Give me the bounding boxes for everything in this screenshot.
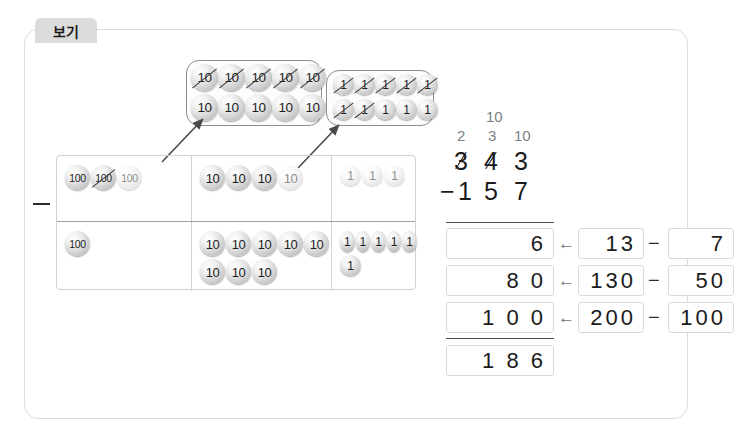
place-value-chip-10: 10 <box>191 94 218 121</box>
place-value-chip-1: 1 <box>362 165 383 186</box>
regroup-row: 2 3 10 <box>452 127 577 146</box>
place-value-chip-1: 1 <box>375 99 396 120</box>
dec-result-hundreds: 1 0 0 <box>446 302 554 333</box>
place-value-chip-1: 1 <box>384 165 405 186</box>
place-value-chip-10: 10 <box>200 231 225 256</box>
left-arrow-tens: ← <box>558 265 575 296</box>
total-rule-line <box>446 338 554 339</box>
place-value-chip-10: 10 <box>226 259 251 284</box>
place-value-table: 100100100 10101010 111 100 1010101010 10… <box>56 155 416 290</box>
regroup-top-tens: 10 <box>486 108 503 125</box>
subtraction-operator: − <box>440 176 455 206</box>
table-row-minuend: 100100100 10101010 111 <box>57 156 415 222</box>
dec-right-tens: 50 <box>668 265 734 296</box>
regroup-tens: 3 <box>488 127 496 144</box>
place-value-chip-10: 10 <box>299 94 326 121</box>
place-value-chip-1: 1 <box>417 99 438 120</box>
place-value-chip-1: 1 <box>375 74 396 95</box>
panel-tab-label: 보기 <box>35 18 97 43</box>
place-value-chip-10: 10 <box>252 165 277 190</box>
place-value-chip-10: 10 <box>272 64 299 91</box>
dec-left-ones: 13 <box>578 228 644 259</box>
regroup-hundreds: 2 <box>457 127 465 144</box>
place-value-chip-100: 100 <box>65 165 90 190</box>
place-value-chip-10: 10 <box>278 231 303 256</box>
minuend-hundreds: 3 <box>454 146 468 176</box>
minuend-tens: 4 <box>484 146 498 176</box>
place-value-chip-1: 1 <box>354 74 375 95</box>
place-value-chip-100: 100 <box>91 165 116 190</box>
place-value-chip-1: 1 <box>387 231 402 252</box>
cell-ones-row2: 11111 1 <box>332 222 417 291</box>
place-value-chip-10: 10 <box>200 259 225 284</box>
left-arrow-ones: ← <box>558 228 575 259</box>
place-value-chip-1: 1 <box>354 99 375 120</box>
dec-right-hundreds: 100 <box>668 302 734 333</box>
cell-tens-row2: 1010101010 101010 <box>192 222 332 291</box>
place-value-chip-1: 1 <box>333 74 354 95</box>
place-value-chip-1: 1 <box>402 231 417 252</box>
place-value-chip-10: 10 <box>200 165 225 190</box>
place-value-chip-10: 10 <box>191 64 218 91</box>
cell-hundreds-row2: 100 <box>57 222 192 291</box>
regroup-ones: 10 <box>514 127 531 144</box>
place-value-chip-1: 1 <box>396 99 417 120</box>
ones-expanded-group: 11111 11111 <box>326 70 434 126</box>
cell-ones-row1: 111 <box>332 156 417 221</box>
place-value-chip-10: 10 <box>226 231 251 256</box>
place-value-chip-10: 10 <box>218 64 245 91</box>
decomposition-total: 1 8 6 <box>446 345 566 376</box>
place-value-chip-1: 1 <box>396 74 417 95</box>
place-value-chip-10: 10 <box>226 165 251 190</box>
place-value-chip-10: 10 <box>304 231 329 256</box>
dec-op-hundreds: − <box>648 302 660 333</box>
place-value-chip-1: 1 <box>340 165 361 186</box>
place-value-chip-10: 10 <box>245 64 272 91</box>
place-value-chip-1: 1 <box>417 74 438 95</box>
place-value-chip-10: 10 <box>272 94 299 121</box>
place-value-chip-100: 100 <box>117 165 142 190</box>
dec-result-ones: 6 <box>446 228 554 259</box>
minuend-ones: 3 <box>514 146 528 176</box>
dec-left-hundreds: 200 <box>578 302 644 333</box>
decomposition-row-ones: 6 ← 13 − 7 <box>446 228 696 259</box>
place-value-chip-1: 1 <box>371 231 386 252</box>
subtraction-rule-line <box>446 222 554 223</box>
left-arrow-hundreds: ← <box>558 302 575 333</box>
decomposition-row-hundreds: 1 0 0 ← 200 − 100 <box>446 302 696 333</box>
subtrahend-hundreds: 1 <box>458 176 472 206</box>
dec-right-ones: 7 <box>668 228 734 259</box>
dec-result-tens: 8 0 <box>446 265 554 296</box>
cell-tens-row1: 10101010 <box>192 156 332 221</box>
place-value-chip-10: 10 <box>252 231 277 256</box>
table-minus-operator <box>33 203 50 205</box>
place-value-chip-10: 10 <box>299 64 326 91</box>
place-value-chip-10: 10 <box>278 165 303 190</box>
place-value-chip-100: 100 <box>65 231 90 256</box>
place-value-chip-1: 1 <box>333 99 354 120</box>
place-value-chip-10: 10 <box>218 94 245 121</box>
place-value-chip-1: 1 <box>340 255 361 276</box>
regroup-top-row: 10 <box>452 108 577 127</box>
table-row-result: 100 1010101010 101010 11111 1 <box>57 222 415 291</box>
dec-op-tens: − <box>648 265 660 296</box>
minuend-row: 3 4 3 <box>452 146 577 176</box>
vertical-subtraction: 10 2 3 10 3 4 3 − 1 5 7 <box>452 108 577 208</box>
cell-hundreds-row1: 100100100 <box>57 156 192 221</box>
tens-expanded-group: 1010101010 1010101010 <box>186 60 322 126</box>
place-value-chip-10: 10 <box>245 94 272 121</box>
place-value-chip-1: 1 <box>340 231 355 252</box>
place-value-chip-10: 10 <box>252 259 277 284</box>
dec-op-ones: − <box>648 228 660 259</box>
dec-left-tens: 130 <box>578 265 644 296</box>
decomposition-row-tens: 8 0 ← 130 − 50 <box>446 265 696 296</box>
place-value-chip-1: 1 <box>356 231 371 252</box>
subtrahend-ones: 7 <box>514 176 528 206</box>
total-value: 1 8 6 <box>446 345 554 376</box>
subtrahend-row: − 1 5 7 <box>452 176 577 208</box>
subtrahend-tens: 5 <box>484 176 498 206</box>
